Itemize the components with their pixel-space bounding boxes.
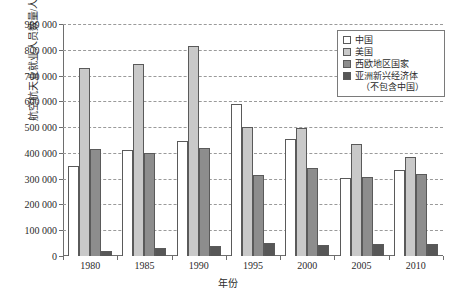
x-tick-mark [443, 256, 444, 260]
y-tick-mark [59, 153, 63, 154]
legend-item: 美国 [343, 46, 440, 58]
bar [177, 141, 188, 256]
y-tick-mark [59, 50, 63, 51]
bar [318, 245, 329, 256]
bar [144, 153, 155, 256]
bar [394, 170, 405, 256]
y-tick-mark [59, 127, 63, 128]
x-tick-mark [389, 256, 390, 260]
y-tick-label: 900 000 [25, 19, 58, 30]
legend-item: 西欧地区国家 [343, 58, 440, 70]
x-tick-label: 2010 [406, 260, 426, 271]
x-tick-label: 1980 [80, 260, 100, 271]
bar [427, 244, 438, 256]
bar [199, 148, 210, 256]
y-tick-label: 100 000 [25, 225, 58, 236]
y-tick-label: 800 000 [25, 44, 58, 55]
y-tick-mark [59, 101, 63, 102]
bar [188, 46, 199, 256]
legend-swatch [343, 36, 351, 44]
bar [231, 104, 242, 256]
bar [340, 178, 351, 256]
bar [416, 174, 427, 256]
bar [133, 64, 144, 256]
y-tick-label: 600 000 [25, 96, 58, 107]
x-tick-mark [63, 256, 64, 260]
legend-swatch [343, 48, 351, 56]
y-tick-mark [59, 24, 63, 25]
bar-group [68, 24, 112, 256]
bar [155, 248, 166, 257]
y-axis-line [63, 24, 64, 256]
bar [351, 144, 362, 256]
y-tick-label: 400 000 [25, 147, 58, 158]
y-tick-label: 500 000 [25, 122, 58, 133]
y-tick-label: 200 000 [25, 199, 58, 210]
y-tick-mark [59, 230, 63, 231]
chart-legend: 中国美国西欧地区国家亚洲新兴经济体（不包含中国） [337, 30, 445, 97]
x-tick-label: 2000 [297, 260, 317, 271]
bar-group [231, 24, 275, 256]
x-tick-label: 1995 [243, 260, 263, 271]
legend-label: 中国 [355, 35, 373, 46]
bar [253, 175, 264, 256]
y-tick-label: 700 000 [25, 70, 58, 81]
aerospace-employment-bar-chart: 航空航天业就业人员数量/人 0100 000200 000300 000400 … [0, 0, 455, 298]
bar [210, 246, 221, 256]
bar [285, 139, 296, 256]
bar [68, 166, 79, 256]
bar [373, 244, 384, 256]
legend-item: 亚洲新兴经济体 [343, 70, 440, 82]
y-tick-mark [59, 204, 63, 205]
bar [362, 177, 373, 256]
legend-swatch [343, 60, 351, 68]
bar-group [122, 24, 166, 256]
y-tick-label: 300 000 [25, 173, 58, 184]
bar [307, 168, 318, 256]
bar [242, 127, 253, 256]
bar [122, 150, 133, 256]
legend-label-continuation: （不包含中国） [343, 82, 440, 93]
x-tick-label: 2005 [352, 260, 372, 271]
bar [101, 251, 112, 256]
x-tick-label: 1990 [189, 260, 209, 271]
bar [79, 68, 90, 256]
legend-label: 西欧地区国家 [355, 59, 409, 70]
y-tick-label: 0 [52, 251, 57, 262]
x-axis-title: 年份 [0, 275, 455, 290]
bar [264, 243, 275, 256]
x-tick-mark [117, 256, 118, 260]
x-tick-mark [172, 256, 173, 260]
y-tick-mark [59, 76, 63, 77]
legend-swatch [343, 72, 351, 80]
bar [405, 157, 416, 256]
legend-label: 美国 [355, 47, 373, 58]
y-tick-mark [59, 179, 63, 180]
legend-item: 中国 [343, 34, 440, 46]
x-tick-mark [280, 256, 281, 260]
x-tick-mark [334, 256, 335, 260]
bar [296, 128, 307, 256]
bar-group [177, 24, 221, 256]
bar-group [285, 24, 329, 256]
legend-label: 亚洲新兴经济体 [355, 71, 418, 82]
bar [90, 149, 101, 256]
x-tick-mark [226, 256, 227, 260]
x-tick-label: 1985 [134, 260, 154, 271]
